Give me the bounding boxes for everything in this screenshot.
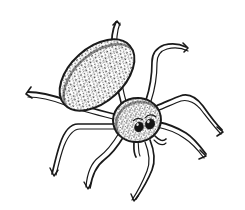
spider-illustration-canvas: Spider line illustration [0,0,245,210]
spider-illustration [0,0,245,210]
